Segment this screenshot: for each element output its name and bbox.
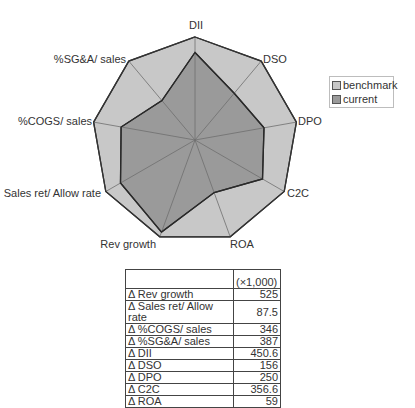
axis-label-rev-growth: Rev growth — [100, 238, 156, 250]
table-row: Δ ROA 59 — [126, 396, 281, 408]
row-label: Δ %COGS/ sales — [126, 324, 234, 336]
row-label: Δ DII — [126, 348, 234, 360]
row-label: Δ Rev growth — [126, 289, 234, 301]
table-row: Δ C2C 356.6 — [126, 384, 281, 396]
axis-label-sga: %SG&A/ sales — [54, 53, 126, 65]
chart-legend: benchmark current — [329, 76, 394, 108]
axis-label-cogs: %COGS/ sales — [18, 115, 92, 127]
delta-table: (×1,000) Δ Rev growth 525 Δ Sales ret/ A… — [125, 269, 281, 408]
row-label: Δ ROA — [126, 396, 234, 408]
legend-label-current: current — [343, 93, 377, 105]
table-row: Δ DII 450.6 — [126, 348, 281, 360]
table-header-label — [126, 270, 234, 289]
axis-label-roa: ROA — [230, 238, 254, 250]
table-row: Δ %SG&A/ sales 387 — [126, 336, 281, 348]
axis-label-sales-ret: Sales ret/ Allow rate — [4, 187, 101, 199]
radar-chart — [0, 0, 415, 260]
row-value: 346 — [234, 324, 281, 336]
row-label: Δ DPO — [126, 372, 234, 384]
row-label: Δ Sales ret/ Allow rate — [126, 301, 234, 324]
table-row: Δ DPO 250 — [126, 372, 281, 384]
table-header-row: (×1,000) — [126, 270, 281, 289]
table-row: Δ DSO 156 — [126, 360, 281, 372]
row-value: 250 — [234, 372, 281, 384]
axis-label-dii: DII — [189, 19, 203, 31]
axis-label-dpo: DPO — [298, 115, 322, 127]
benchmark-swatch-icon — [332, 81, 341, 90]
legend-label-benchmark: benchmark — [343, 79, 397, 91]
table-header-unit: (×1,000) — [234, 270, 281, 289]
table-row: Δ Sales ret/ Allow rate 87.5 — [126, 301, 281, 324]
axis-label-c2c: C2C — [287, 187, 309, 199]
row-label: Δ C2C — [126, 384, 234, 396]
table-row: Δ Rev growth 525 — [126, 289, 281, 301]
current-swatch-icon — [332, 95, 341, 104]
row-value: 87.5 — [234, 301, 281, 324]
legend-item-current: current — [330, 92, 393, 106]
legend-item-benchmark: benchmark — [330, 78, 393, 92]
row-label: Δ %SG&A/ sales — [126, 336, 234, 348]
table-row: Δ %COGS/ sales 346 — [126, 324, 281, 336]
row-value: 356.6 — [234, 384, 281, 396]
row-label: Δ DSO — [126, 360, 234, 372]
row-value: 156 — [234, 360, 281, 372]
axis-label-dso: DSO — [263, 53, 287, 65]
row-value: 450.6 — [234, 348, 281, 360]
row-value: 387 — [234, 336, 281, 348]
row-value: 59 — [234, 396, 281, 408]
row-value: 525 — [234, 289, 281, 301]
